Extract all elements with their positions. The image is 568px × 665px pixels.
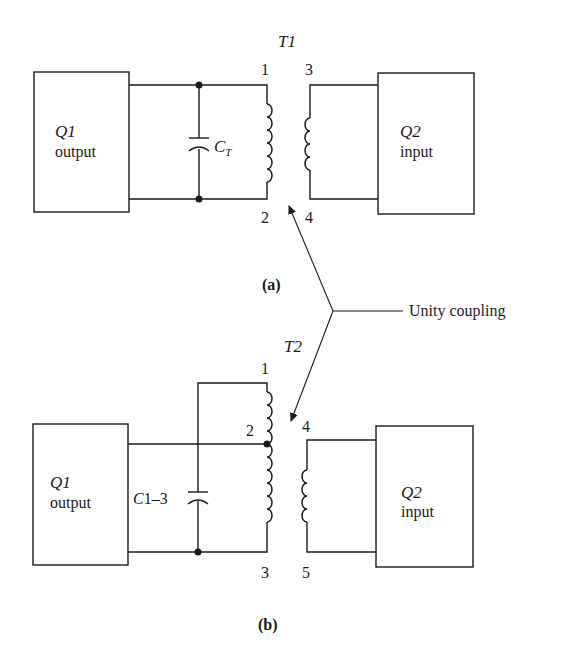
arrow-to-t2 — [291, 311, 333, 421]
q2-input-box-b — [376, 426, 473, 567]
terminal-4-b: 4 — [302, 418, 310, 435]
caption-b: (b) — [258, 616, 278, 634]
secondary-top-wire-b — [307, 440, 376, 470]
q2-name-b: Q2 — [401, 483, 422, 502]
q2-name-a: Q2 — [400, 122, 421, 141]
q1-name-b: Q1 — [50, 473, 71, 492]
secondary-bottom-wire-b — [307, 522, 376, 552]
junction-dot-a1 — [196, 82, 203, 89]
circuit-a: Q1 output CT Q2 input T1 1 2 3 4 (a) — [34, 32, 474, 294]
capacitor-label-a: CT — [214, 137, 232, 158]
primary-coil-upper-b — [267, 392, 272, 444]
terminal-2-b: 2 — [246, 422, 254, 439]
capacitor-label-b: C1–3 — [133, 490, 168, 507]
terminal-3-b: 3 — [261, 564, 269, 581]
q1-label-b: output — [50, 494, 91, 512]
terminal-2-a: 2 — [261, 209, 269, 226]
terminal-4-a: 4 — [305, 209, 313, 226]
q2-label-b: input — [401, 503, 434, 521]
terminal-5-b: 5 — [302, 564, 310, 581]
transformer-label-t1: T1 — [278, 32, 296, 51]
secondary-top-wire-a — [310, 85, 378, 118]
secondary-coil-a — [305, 118, 310, 170]
junction-dot-b — [195, 549, 202, 556]
unity-coupling-label: Unity coupling — [409, 302, 505, 320]
unity-coupling-callout: Unity coupling — [289, 206, 505, 421]
q1-name-a: Q1 — [55, 122, 76, 141]
terminal-1-b: 1 — [261, 360, 269, 377]
caption-a: (a) — [262, 276, 281, 294]
top-loop-wire-b — [198, 383, 267, 492]
terminal-1-a: 1 — [261, 61, 269, 78]
q1-label-a: output — [55, 143, 96, 161]
junction-dot-a2 — [196, 196, 203, 203]
primary-coil-a — [267, 104, 272, 182]
q2-label-a: input — [400, 143, 433, 161]
terminal-3-a: 3 — [305, 61, 313, 78]
circuit-diagram: Q1 output CT Q2 input T1 1 2 3 4 (a) Uni… — [0, 0, 568, 665]
transformer-label-t2: T2 — [284, 337, 302, 356]
secondary-coil-b — [302, 470, 307, 522]
secondary-bottom-wire-a — [310, 170, 378, 199]
q1-output-box-a — [34, 72, 129, 212]
circuit-b: Q1 output C1–3 Q2 input T2 1 2 3 4 5 (b) — [33, 337, 473, 634]
primary-coil-lower-b — [267, 444, 272, 522]
